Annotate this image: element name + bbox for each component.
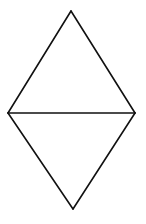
bottom-right-edge — [73, 113, 135, 209]
top-right-edge — [71, 11, 135, 113]
bottom-left-edge — [8, 113, 73, 209]
rhombus-shape — [8, 11, 135, 209]
rhombus-diagram — [0, 0, 146, 224]
top-left-edge — [8, 11, 71, 113]
